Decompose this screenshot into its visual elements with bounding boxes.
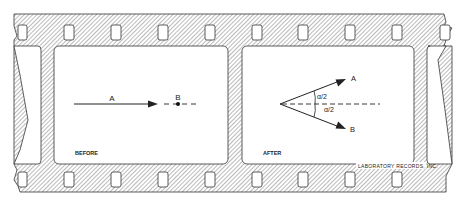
vector-b-label: B [350,125,355,134]
angle-label-upper: α/2 [317,93,327,100]
frame-before [54,46,228,164]
credit-text: LABORATORY RECORDS, INC. [358,163,438,169]
film-strip-diagram: A B BEFORE A B α/2 α/2 AFTER LABORATORY … [0,0,458,202]
vector-a-label: A [351,74,356,83]
angle-label-lower: α/2 [324,106,334,113]
point-b-label: B [175,93,180,102]
caption-after: AFTER [263,150,281,156]
caption-before: BEFORE [75,150,98,156]
frame-after [242,46,414,164]
vector-a-label: A [109,94,115,103]
point-b-dot [176,102,180,106]
